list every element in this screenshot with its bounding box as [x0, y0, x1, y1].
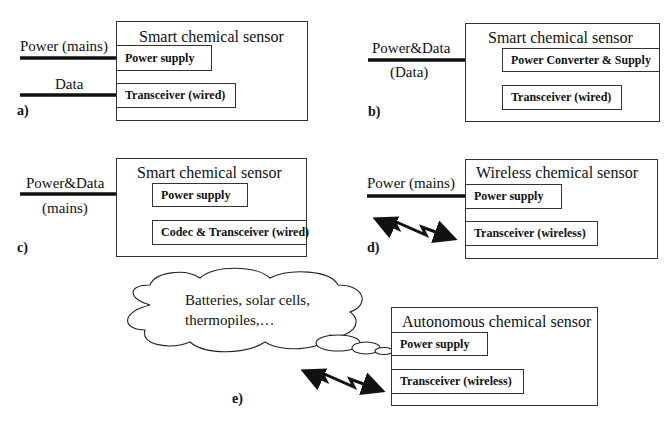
- panel-d-wires: [367, 196, 465, 238]
- sensor-title-b: Smart chemical sensor: [488, 29, 633, 47]
- power-supply-block-d: Power supply: [465, 184, 562, 209]
- power-data-label: Power&Data: [26, 175, 104, 192]
- panel-letter-b: b): [368, 104, 380, 120]
- codec-transceiver-block-c: Codec & Transceiver (wired): [152, 220, 307, 245]
- power-converter-block-b: Power Converter & Supply: [502, 48, 660, 72]
- power-supply-block-c: Power supply: [152, 183, 248, 207]
- sensor-title-d: Wireless chemical sensor: [476, 164, 638, 182]
- data-sub-label: (Data): [390, 64, 428, 81]
- sensor-title-c: Smart chemical sensor: [137, 164, 282, 182]
- power-mains-label: Power (mains): [20, 38, 108, 55]
- transceiver-block-b: Transceiver (wired): [502, 85, 622, 110]
- transceiver-block-a: Transceiver (wired): [116, 83, 236, 108]
- panel-letter-d: d): [367, 240, 379, 256]
- power-mains-label: Power (mains): [367, 175, 455, 192]
- sensor-title-e: Autonomous chemical sensor: [402, 313, 591, 331]
- cloud-text-line-2: thermopiles,…: [185, 310, 310, 330]
- power-supply-block-a: Power supply: [116, 45, 212, 71]
- sensor-title-a: Smart chemical sensor: [139, 28, 284, 46]
- panel-e-wireless: [306, 372, 380, 390]
- power-supply-block-e: Power supply: [391, 332, 488, 356]
- wireless-link-icon-e: [306, 372, 380, 390]
- cloud-text-line-1: Batteries, solar cells,: [185, 290, 310, 310]
- panel-letter-a: a): [17, 103, 29, 119]
- power-data-label: Power&Data: [372, 40, 450, 57]
- transceiver-wireless-block-d: Transceiver (wireless): [465, 221, 598, 246]
- transceiver-wireless-block-e: Transceiver (wireless): [391, 369, 524, 394]
- panel-letter-c: c): [17, 240, 28, 256]
- panel-letter-e: e): [232, 391, 243, 407]
- wireless-link-icon-d: [378, 220, 452, 238]
- data-label: Data: [55, 76, 83, 93]
- cloud-text: Batteries, solar cells, thermopiles,…: [185, 290, 310, 330]
- mains-sub-label: (mains): [42, 200, 88, 217]
